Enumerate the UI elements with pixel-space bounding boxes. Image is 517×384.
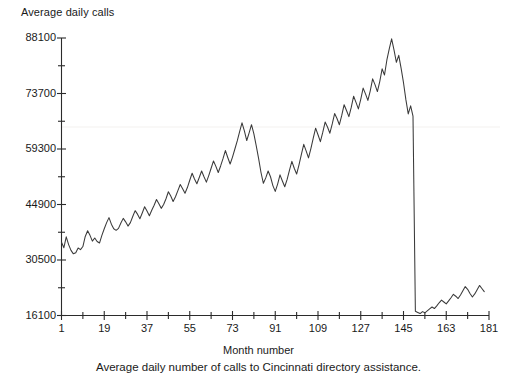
y-tick-label: 88100 xyxy=(8,31,56,43)
x-tick-label: 55 xyxy=(170,322,210,334)
x-axis-title: Month number xyxy=(0,344,517,356)
chart-figure: Average daily calls 16100305004490059300… xyxy=(0,0,517,384)
x-tick-label: 91 xyxy=(255,322,295,334)
figure-caption: Average daily number of calls to Cincinn… xyxy=(0,361,517,373)
y-tick-label: 73700 xyxy=(8,87,56,99)
x-tick-label: 37 xyxy=(127,322,167,334)
y-tick-label: 44900 xyxy=(8,198,56,210)
x-tick-label: 127 xyxy=(341,322,381,334)
x-tick-label: 181 xyxy=(469,322,509,334)
x-tick-label: 145 xyxy=(384,322,424,334)
x-tick-label: 163 xyxy=(426,322,466,334)
y-tick-label: 30500 xyxy=(8,253,56,265)
y-tick-label: 16100 xyxy=(8,309,56,321)
axis-lines xyxy=(62,38,490,316)
data-series-line xyxy=(62,39,485,314)
x-tick-label: 73 xyxy=(213,322,253,334)
x-tick-label: 19 xyxy=(84,322,124,334)
y-tick-label: 59300 xyxy=(8,142,56,154)
x-tick-label: 1 xyxy=(42,322,82,334)
x-tick-label: 109 xyxy=(298,322,338,334)
